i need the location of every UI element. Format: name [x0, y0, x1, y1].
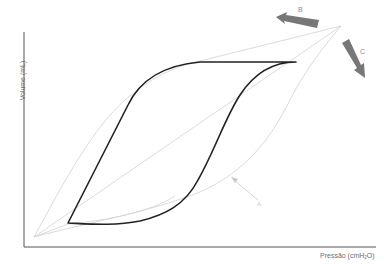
- annotation-a-label: A: [257, 200, 261, 208]
- annotation-c-label: C: [360, 48, 365, 56]
- pv-loop-svg: [0, 0, 384, 264]
- x-axis-label-main: Pressão (cmH: [320, 252, 364, 259]
- y-axis-label: Volume (mL): [18, 61, 27, 101]
- pv-loop-figure: Volume (mL) Pressão (cmH2O) B C A: [0, 0, 384, 264]
- arrow-b-icon: [276, 12, 319, 28]
- annotation-b-label: B: [298, 6, 303, 14]
- arrow-c-icon: [342, 39, 365, 78]
- arrow-a-icon: [231, 177, 258, 200]
- x-axis-label-end: O): [367, 252, 375, 259]
- hysteresis-loop: [68, 62, 296, 224]
- straight-reference-line: [34, 26, 341, 237]
- x-axis-label: Pressão (cmH2O): [320, 251, 375, 262]
